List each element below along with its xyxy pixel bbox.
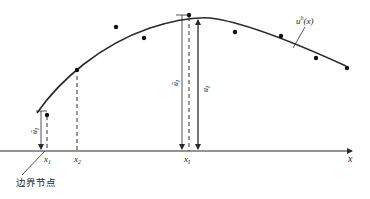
approximation-curve — [37, 18, 346, 113]
boundary-node-label: 边界节点 — [16, 177, 56, 188]
curve-label: uh(x) — [296, 15, 314, 26]
dim-right-label: uI — [201, 85, 211, 92]
x-axis-label: x — [347, 153, 353, 164]
nodal-points — [45, 13, 349, 117]
tick-xI: xI — [183, 154, 191, 165]
boundary-node-leader — [22, 151, 45, 175]
tick-x2: x2 — [73, 154, 81, 165]
approximation-diagram: x ūI ūI uI x1 x2 xI — [0, 0, 370, 199]
dim-left-label: ūI — [30, 127, 40, 134]
dim-mid-label: ūI — [171, 79, 181, 86]
tick-x1: x1 — [43, 154, 51, 165]
